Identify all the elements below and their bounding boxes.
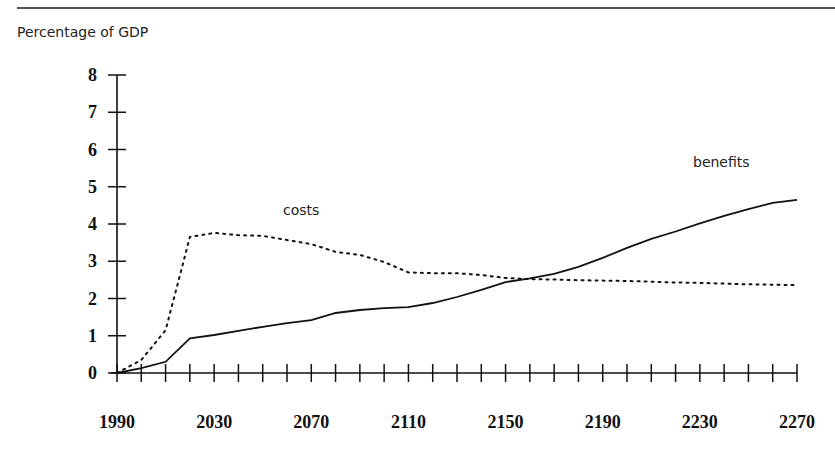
x-tick-label: 1990 — [99, 412, 135, 432]
costs-label: costs — [283, 202, 319, 218]
x-tick-label: 2030 — [196, 412, 232, 432]
y-tick-label: 7 — [88, 102, 97, 122]
x-tick-label: 2190 — [585, 412, 621, 432]
y-tick-label: 2 — [88, 289, 97, 309]
y-tick-label: 4 — [88, 214, 97, 234]
axes — [111, 75, 797, 373]
y-tick-label: 6 — [88, 140, 97, 160]
y-axis-ticks: 012345678 — [88, 65, 126, 383]
benefits-series-line — [117, 200, 797, 373]
x-axis-ticks: 19902030207021102150219022302270 — [99, 364, 815, 432]
x-tick-label: 2230 — [682, 412, 718, 432]
y-tick-label: 8 — [88, 65, 97, 85]
x-tick-label: 2270 — [779, 412, 815, 432]
costs-series-line — [117, 233, 797, 373]
y-tick-label: 5 — [88, 177, 97, 197]
line-chart: 012345678 199020302070211021502190223022… — [0, 0, 835, 455]
x-tick-label: 2150 — [488, 412, 524, 432]
y-tick-label: 1 — [88, 326, 97, 346]
benefits-label: benefits — [693, 154, 750, 170]
y-tick-label: 0 — [88, 363, 97, 383]
y-tick-label: 3 — [88, 251, 97, 271]
x-tick-label: 2070 — [293, 412, 329, 432]
x-tick-label: 2110 — [391, 412, 426, 432]
